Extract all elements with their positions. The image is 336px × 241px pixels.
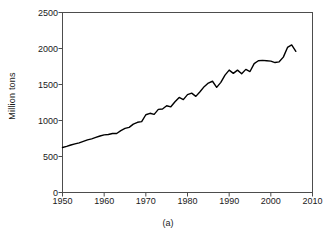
y-tick-label: 1500 xyxy=(26,80,58,90)
plot-frame xyxy=(63,13,313,193)
x-tick-label: 1990 xyxy=(209,196,249,206)
y-axis-ticks xyxy=(59,13,63,193)
data-series-line xyxy=(63,45,296,148)
y-tick-label: 2500 xyxy=(26,8,58,18)
y-axis-label: Million tons xyxy=(2,0,22,192)
y-tick-label: 1000 xyxy=(26,116,58,126)
x-tick-label: 1970 xyxy=(126,196,166,206)
x-tick-label: 1980 xyxy=(168,196,208,206)
x-tick-label: 1960 xyxy=(84,196,124,206)
x-tick-label: 2000 xyxy=(251,196,291,206)
x-tick-label: 1950 xyxy=(43,196,83,206)
y-tick-label: 2000 xyxy=(26,44,58,54)
chart-figure: Million tons 05001000150020002500 195019… xyxy=(0,0,336,241)
figure-caption: (a) xyxy=(0,218,336,228)
y-axis-label-text: Million tons xyxy=(7,72,17,119)
x-tick-label: 2010 xyxy=(293,196,333,206)
y-tick-label: 500 xyxy=(26,152,58,162)
